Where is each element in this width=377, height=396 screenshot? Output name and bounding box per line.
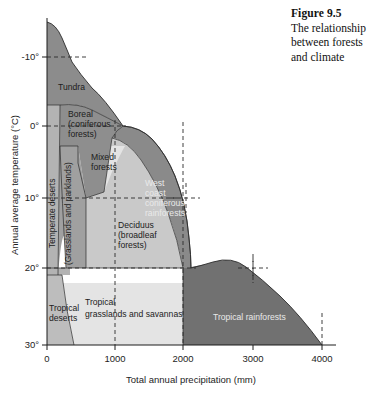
biome-label-deciduous-line3: forests) [118, 240, 147, 250]
y-tick-label-3: 20° [25, 262, 40, 273]
biome-label-west-coast-line3: coniferous [145, 198, 185, 208]
biome-label-tropical-deserts: Tropical deserts [49, 303, 79, 323]
figure-container: Figure 9.5 The relationship between fore… [0, 0, 377, 396]
region-tropical-rainforests [183, 260, 322, 345]
y-axis-title: Annual average temperature (°C) [9, 115, 20, 255]
y-tick-label-0: -10° [21, 51, 39, 62]
biome-label-mixed-line1: Mixed [91, 152, 114, 162]
plot-area: -10° 0° 10° 20° 30° 0 1000 2000 3000 400… [9, 18, 336, 385]
biome-label-grasslands-parklands: (Grasslands and parklands) [63, 162, 73, 265]
x-tick-label-1: 1000 [104, 353, 125, 364]
biome-label-boreal-line2: (coniferous [68, 119, 111, 129]
x-tick-label-4: 4000 [311, 353, 332, 364]
biome-label-temperate-deserts: Temperate deserts [47, 179, 57, 248]
biome-label-west-coast-line1: West [145, 178, 165, 188]
biome-label-tropical-grasslands-line2: grasslands and savannas [85, 309, 182, 319]
biome-label-mixed-forests: Mixed forests [91, 152, 117, 172]
biome-label-tundra: Tundra [58, 82, 85, 92]
x-axis-title: Total annual precipitation (mm) [126, 374, 256, 385]
y-tick-label-2: 10° [25, 192, 40, 203]
biome-label-boreal-line3: forests) [68, 129, 97, 139]
climate-biome-chart: -10° 0° 10° 20° 30° 0 1000 2000 3000 400… [0, 0, 377, 396]
biome-label-mixed-line2: forests [91, 162, 117, 172]
biome-label-tropical-rainforests: Tropical rainforests [213, 312, 286, 322]
x-tick-label-3: 3000 [242, 353, 263, 364]
x-tick-labels: 0 1000 2000 3000 4000 [44, 353, 332, 364]
biome-label-tropical-grasslands-line1: Tropical [85, 297, 115, 307]
biome-label-west-coast-line2: coast [145, 188, 166, 198]
x-tick-label-0: 0 [44, 353, 49, 364]
biome-label-deciduous-line2: (broadleaf [118, 230, 157, 240]
biome-label-tropical-deserts-line2: deserts [49, 313, 77, 323]
region-tropical-divider [47, 268, 70, 275]
y-tick-labels: -10° 0° 10° 20° 30° [21, 51, 39, 350]
biome-label-tropical-deserts-line1: Tropical [49, 303, 79, 313]
biome-label-west-coast-line4: rainforests [145, 208, 185, 218]
x-ticks [47, 345, 322, 350]
y-tick-label-4: 30° [25, 339, 40, 350]
x-tick-label-2: 2000 [172, 353, 193, 364]
biome-label-deciduous-line1: Deciduus [118, 220, 154, 230]
y-tick-label-1: 0° [30, 120, 39, 131]
biome-label-boreal-line1: Boreal [68, 109, 93, 119]
